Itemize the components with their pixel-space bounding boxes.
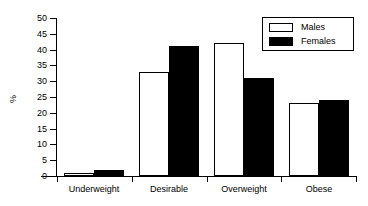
bar-overweight-females: [244, 78, 274, 176]
x-axis-tick: [356, 177, 357, 182]
y-axis-tick: [50, 129, 56, 130]
y-axis-tick: [50, 34, 56, 35]
x-axis-line: [41, 176, 357, 177]
bar-desirable-females: [169, 46, 199, 176]
legend-swatch-females-icon: [269, 37, 293, 46]
bar-underweight-males: [64, 173, 94, 176]
bmi-category-bar-chart: % 05101520253035404550 UnderweightDesira…: [0, 0, 368, 206]
y-axis-tick-label: 40: [20, 46, 47, 55]
y-axis-tick-label: 20: [20, 109, 47, 118]
y-axis-tick-label: 5: [20, 156, 47, 165]
y-axis-tick: [50, 113, 56, 114]
x-axis-label-obese: Obese: [269, 184, 368, 194]
bar-desirable-males: [139, 72, 169, 176]
legend-label-males: Males: [301, 22, 325, 33]
y-axis-tick-label: 15: [20, 125, 47, 134]
y-axis-tick-label: 0: [20, 172, 47, 181]
y-axis-tick-label: 25: [20, 93, 47, 102]
y-axis-tick-label: 10: [20, 140, 47, 149]
y-axis-tick: [50, 160, 56, 161]
x-axis-tick: [207, 177, 208, 182]
y-axis-tick-label: 35: [20, 61, 47, 70]
y-axis-tick: [50, 18, 56, 19]
y-axis-tick: [50, 50, 56, 51]
y-axis-tick: [50, 144, 56, 145]
chart-legend: Males Females: [262, 17, 354, 51]
y-axis-tick: [50, 81, 56, 82]
y-axis-tick: [50, 176, 56, 177]
bar-obese-males: [289, 103, 319, 176]
y-axis-tick-label: 50: [20, 14, 47, 23]
x-axis-tick: [57, 177, 58, 182]
x-axis-tick: [132, 177, 133, 182]
bar-overweight-males: [214, 43, 244, 176]
legend-swatch-males-icon: [269, 23, 293, 32]
bar-underweight-females: [94, 170, 124, 176]
x-axis-tick: [281, 177, 282, 182]
legend-label-females: Females: [301, 36, 336, 47]
y-axis-tick-label: 45: [20, 30, 47, 39]
y-axis-tick: [50, 97, 56, 98]
bar-obese-females: [319, 100, 349, 176]
y-axis-tick: [50, 65, 56, 66]
y-axis-tick-label: 30: [20, 77, 47, 86]
